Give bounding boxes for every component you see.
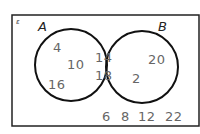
set-a-label: A	[38, 20, 47, 33]
region-outside-value: 12	[138, 110, 156, 123]
region-outside-value: 6	[102, 110, 111, 123]
region-b-only-value: 20	[148, 53, 166, 66]
set-b-label: B	[158, 20, 167, 33]
region-b-only-value: 2	[132, 72, 141, 85]
universal-set-symbol: ε	[16, 18, 20, 26]
region-intersection-value: 18	[95, 69, 113, 82]
region-a-only-value: 10	[67, 58, 85, 71]
region-outside-value: 22	[165, 110, 183, 123]
region-a-only-value: 16	[48, 78, 66, 91]
region-intersection-value: 14	[95, 51, 113, 64]
region-outside-value: 8	[121, 110, 130, 123]
set-b-circle	[106, 31, 178, 103]
region-a-only-value: 4	[53, 41, 62, 54]
